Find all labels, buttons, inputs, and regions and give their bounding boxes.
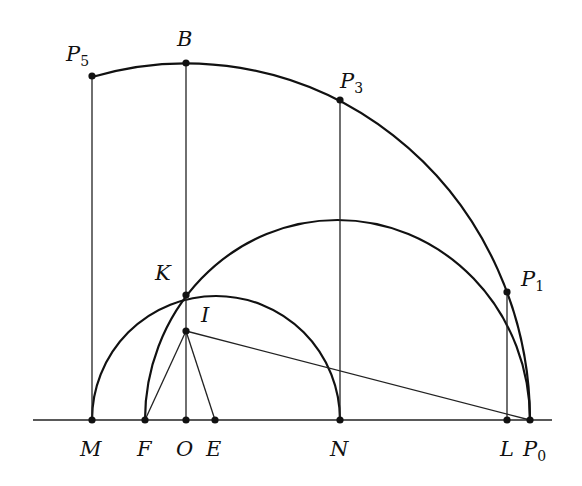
point-K xyxy=(182,291,189,298)
point-L xyxy=(503,416,510,423)
label-L: L xyxy=(499,437,514,461)
point-P3 xyxy=(336,96,343,103)
label-P3-main: P xyxy=(339,69,355,93)
point-P0 xyxy=(526,416,533,423)
label-P3: P3 xyxy=(339,69,363,96)
outer-arc xyxy=(92,63,530,420)
label-P3-sub: 3 xyxy=(354,80,363,96)
segment-I-P0 xyxy=(186,331,530,420)
point-E xyxy=(211,416,218,423)
point-P1 xyxy=(503,288,510,295)
label-P0-sub: 0 xyxy=(537,448,546,464)
label-M: M xyxy=(79,437,102,461)
label-N: N xyxy=(329,437,349,461)
point-P5 xyxy=(88,72,95,79)
label-B: B xyxy=(176,27,192,51)
segment-I-E xyxy=(186,331,215,420)
label-P0-main: P xyxy=(522,437,538,461)
point-M xyxy=(88,416,95,423)
segment-I-F xyxy=(145,331,186,420)
point-I xyxy=(182,327,189,334)
small-semicircle xyxy=(92,296,340,420)
label-I: I xyxy=(200,303,210,327)
label-P0: P0 xyxy=(522,437,546,464)
label-F: F xyxy=(136,437,153,461)
label-P1: P1 xyxy=(520,267,544,294)
geometry-diagram: M F O E N L P0 I K P1 P3 B P5 xyxy=(0,0,582,486)
point-B xyxy=(182,59,189,66)
label-P5: P5 xyxy=(65,42,89,69)
label-P5-main: P xyxy=(65,42,81,66)
label-O: O xyxy=(176,437,193,461)
label-P1-main: P xyxy=(520,267,536,291)
point-F xyxy=(141,416,148,423)
point-N xyxy=(336,416,343,423)
label-E: E xyxy=(205,437,221,461)
label-P5-sub: 5 xyxy=(80,53,89,69)
point-O xyxy=(182,416,189,423)
label-P1-sub: 1 xyxy=(535,278,544,294)
label-K: K xyxy=(154,261,172,285)
